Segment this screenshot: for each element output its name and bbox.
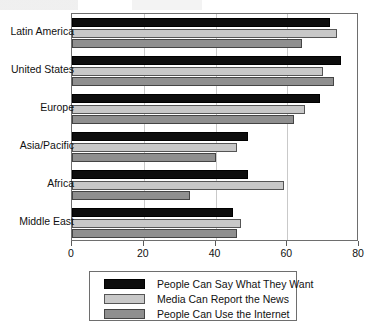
bar <box>72 56 341 65</box>
legend-swatch-series-1 <box>104 294 145 304</box>
x-axis-tick-label: 60 <box>280 247 292 259</box>
bar <box>72 105 305 114</box>
bar <box>72 29 337 38</box>
legend-label-series-2: People Can Use the Internet <box>157 308 290 320</box>
bar-group <box>72 56 359 86</box>
bar <box>72 191 190 200</box>
bar <box>72 18 330 27</box>
y-axis-label: United States <box>0 64 74 75</box>
y-axis-label: Latin America <box>0 26 74 37</box>
x-axis-tick-label: 80 <box>352 247 364 259</box>
y-axis-label: Asia/Pacific <box>0 140 74 151</box>
bar-chart: Latin AmericaUnited StatesEuropeAsia/Pac… <box>0 0 388 329</box>
bar <box>72 67 323 76</box>
x-axis-tick-label: 20 <box>137 247 149 259</box>
bar <box>72 143 237 152</box>
bar-group <box>72 208 359 238</box>
legend-label-series-1: Media Can Report the News <box>157 293 289 305</box>
x-axis-tick <box>286 241 287 246</box>
legend-item: Media Can Report the News <box>104 292 296 306</box>
bar-group <box>72 94 359 124</box>
scan-artifact <box>0 0 388 10</box>
bar <box>72 94 320 103</box>
bar-group <box>72 170 359 200</box>
bar-group <box>72 18 359 48</box>
x-axis-tick <box>358 241 359 246</box>
bar <box>72 229 237 238</box>
plot-area <box>71 13 358 241</box>
bar <box>72 170 248 179</box>
y-axis-label: Middle East <box>0 216 74 227</box>
x-axis-tick <box>143 241 144 246</box>
bar <box>72 208 233 217</box>
legend-swatch-series-0 <box>104 279 145 289</box>
x-axis-tick-label: 0 <box>68 247 74 259</box>
legend-item: People Can Use the Internet <box>104 307 296 321</box>
bar <box>72 77 334 86</box>
bar-group <box>72 132 359 162</box>
bar <box>72 115 294 124</box>
bar <box>72 153 216 162</box>
y-axis-label: Africa <box>0 178 74 189</box>
bar <box>72 132 248 141</box>
x-axis-tick-label: 40 <box>209 247 221 259</box>
legend-item: People Can Say What They Want <box>104 277 296 291</box>
bar <box>72 181 284 190</box>
x-axis-tick <box>71 241 72 246</box>
x-axis-tick <box>215 241 216 246</box>
y-axis-label: Europe <box>0 102 74 113</box>
legend: People Can Say What They Want Media Can … <box>89 271 297 321</box>
bar <box>72 219 241 228</box>
legend-swatch-series-2 <box>104 309 145 319</box>
legend-label-series-0: People Can Say What They Want <box>157 278 313 290</box>
bar <box>72 39 302 48</box>
